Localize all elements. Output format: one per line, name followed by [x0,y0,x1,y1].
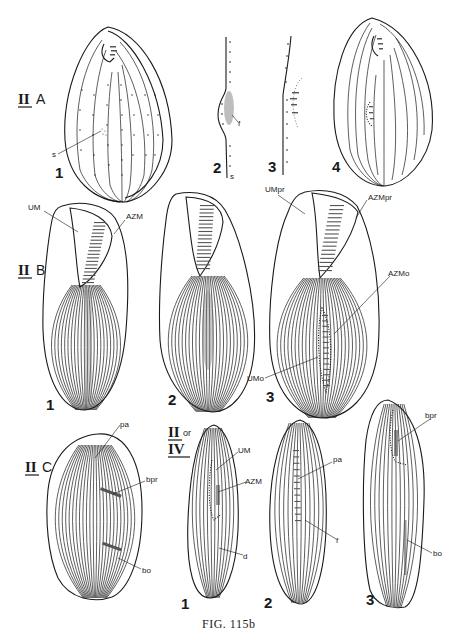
panel-number: 3 [266,388,274,405]
kinety-line [93,445,94,598]
membranelle [295,520,301,521]
label-UMo: UMo [247,374,264,383]
membranelle [294,475,300,476]
membranelle [87,257,99,258]
panel-number: 1 [181,595,189,612]
membranelle [323,363,329,364]
label-AZM: AZM [126,212,143,221]
membranelle [196,264,210,265]
figure-caption: FIG. 115b [202,617,255,631]
leader-line [298,462,332,479]
kinety-line [106,445,132,598]
membranelle [199,227,213,228]
panel-number: 1 [46,396,54,413]
section-IIC: II C pa bpr bo [25,420,158,600]
membranelle [83,275,95,276]
membranelle [324,369,330,370]
label-f: f [238,119,241,128]
membranelle [330,205,344,206]
membranelle [327,221,341,222]
membranelle [323,246,337,247]
membranelle [321,254,335,255]
label-UM: UM [238,446,251,455]
kinety-line [379,404,390,607]
cell-IV-1: UM AZM d 1 [181,425,262,612]
membranelle [322,250,336,251]
membranelle [323,337,329,338]
label-AZMpr: AZMpr [368,193,392,202]
cell-IIC: pa bpr bo [47,420,158,600]
section-II-or-IV: II or IV UM AZM d 1 pa f 2 [168,400,442,612]
membranelle [200,209,214,210]
membranelle [324,374,330,375]
leader-line [44,211,78,232]
membranelle [94,222,106,223]
section-roman-IV: IV [168,441,185,457]
membranelle [322,331,328,332]
label-bpr: bpr [425,411,437,420]
panel-number: 2 [213,159,221,176]
section-roman: II [18,262,30,278]
label-AZMo: AZMo [388,269,410,278]
membranelle [85,268,97,269]
kinety-line [309,278,318,418]
membranelle [198,242,212,243]
kinety-line [96,445,97,598]
membranelle [199,224,213,225]
label-pa: pa [333,455,342,464]
label-bo: bo [433,549,442,558]
membranelle [293,456,299,457]
membranelle [329,213,343,214]
membranelle [197,249,211,250]
membranelle [294,469,300,470]
membranelle [324,385,330,386]
kinety-line [214,428,215,598]
figure-plate: II A [0,0,459,639]
membranelle [328,217,342,218]
label-s: s [52,150,56,159]
membranelle [322,315,328,316]
cell-IIA-2: f s 2 [213,37,241,181]
membranelle [86,261,98,262]
membranelle [325,233,339,234]
section-letter: B [36,262,45,278]
membranelle [82,282,94,283]
panel-number: 2 [264,594,272,611]
cell-IV-3: bpr bo 3 [363,400,442,608]
stippled-field [224,91,234,125]
cell-IIA-4: 4 [332,18,432,186]
label-UMpr: UMpr [265,185,285,194]
kinety-line [300,423,302,603]
membranelle [90,243,102,244]
label-f: f [336,536,339,545]
leader-line [114,220,125,234]
kinety-line [200,428,209,598]
membranelle [200,205,214,206]
membranelle [329,209,343,210]
membranelle [93,229,105,230]
stippled-oral-primordium [202,290,214,370]
kinety-line [51,285,76,410]
section-roman: II [168,424,180,440]
panel-number: 4 [332,158,341,175]
cell-IV-2: pa f 2 [264,420,342,611]
kinetosome-dots [79,84,158,175]
kinety-line [59,445,85,598]
membranelle [326,225,340,226]
kinety-line [284,423,295,603]
membranelle [197,253,211,254]
cell-IIA-1: s 1 [52,27,172,202]
label-s: s [230,172,234,181]
membranelle [318,270,332,271]
membranelle [199,220,213,221]
membranelle [320,258,334,259]
membranelle [196,268,210,269]
section-roman: II [25,459,37,475]
leader-line [398,419,430,441]
label-pa: pa [120,420,129,429]
kinety-line [99,445,108,598]
membranelle [294,482,300,483]
panel-number: 3 [268,158,276,175]
label-UM: UM [28,203,41,212]
membranelle [88,250,100,251]
